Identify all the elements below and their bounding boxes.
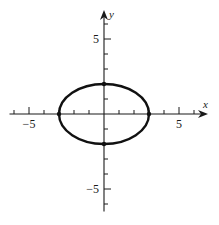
intercept-point: [57, 112, 61, 116]
x-axis-label: x: [202, 98, 208, 110]
intercept-point: [102, 82, 106, 86]
intercept-point: [147, 112, 151, 116]
y-tick-label: −5: [86, 182, 99, 196]
y-tick-label: 5: [93, 32, 99, 46]
intercept-point: [102, 142, 106, 146]
y-axis-label: y: [108, 8, 114, 20]
x-tick-label: 5: [176, 117, 182, 131]
axes: [10, 10, 209, 212]
x-tick-label: −5: [23, 117, 36, 131]
ellipse-plot: −555−5 x y: [0, 0, 219, 225]
